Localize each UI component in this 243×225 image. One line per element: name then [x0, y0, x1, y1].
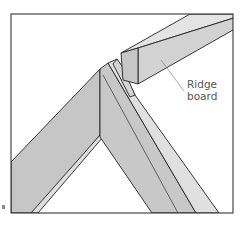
rafter-ridge-illustration: [0, 0, 243, 225]
callout-line-2: board: [187, 90, 217, 102]
callout-line-1: Ridge: [187, 78, 217, 90]
right-rafter-face: [100, 63, 196, 213]
margin-mark: [2, 205, 5, 209]
ridge-board-end: [121, 48, 138, 84]
callout-ridge-board: Ridge board: [187, 78, 217, 102]
